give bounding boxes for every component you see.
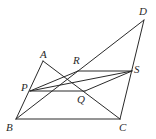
point-label-a: A (39, 48, 47, 60)
point-label-c: C (119, 121, 127, 133)
segment-qs (85, 71, 132, 91)
point-label-q: Q (77, 93, 85, 105)
segment-cd (120, 20, 144, 119)
point-label-s: S (134, 63, 140, 75)
point-label-p: P (20, 81, 28, 93)
point-label-b: B (6, 121, 13, 133)
geometry-diagram: ABCDPQRS (0, 0, 156, 139)
segment-ac (43, 61, 120, 119)
labels: ABCDPQRS (6, 5, 147, 133)
point-label-d: D (138, 5, 147, 17)
point-label-r: R (72, 54, 80, 66)
segment-ps (30, 71, 132, 91)
